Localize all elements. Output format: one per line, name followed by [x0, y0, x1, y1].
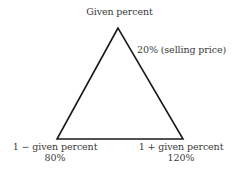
side-annotation: 20% (selling price) [137, 44, 226, 55]
percent-triangle-diagram: Given percent 20% (selling price) 1 − gi… [0, 0, 237, 172]
top-vertex-text: Given percent [86, 6, 153, 17]
bottom-right-value: 120% [136, 152, 226, 163]
bottom-left-formula: 1 − given percent [10, 141, 100, 152]
bottom-right-formula: 1 + given percent [136, 141, 226, 152]
bottom-right-vertex-label: 1 + given percent 120% [136, 141, 226, 163]
top-vertex-label: Given percent [0, 6, 237, 17]
bottom-left-vertex-label: 1 − given percent 80% [10, 141, 100, 163]
bottom-left-value: 80% [10, 152, 100, 163]
